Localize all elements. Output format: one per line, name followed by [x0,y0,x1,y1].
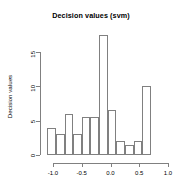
x-axis-tick-label: -1.0 [41,170,65,176]
y-axis-tick [36,86,40,87]
histogram-bar [47,128,56,155]
histogram-bar [99,35,108,155]
histogram-bar [65,114,74,155]
histogram-bar [116,141,125,155]
x-axis-tick [139,163,140,167]
x-axis-tick [168,163,169,167]
y-axis-tick [36,52,40,53]
x-axis-tick-label: 0.5 [127,170,151,176]
x-axis-tick [111,163,112,167]
histogram-bar [108,110,117,155]
chart-container: Decision values (svm) Decision values 05… [0,0,182,192]
y-axis-tick [36,121,40,122]
histogram-bar [56,134,65,155]
histogram-bar [82,117,91,155]
y-axis-tick [36,155,40,156]
histogram-bar [142,86,151,155]
plot-area: 051015-1.0-0.50.00.51.0 [0,0,182,192]
histogram-bar [134,141,143,155]
y-axis-tick-label: 10 [30,85,36,118]
y-axis-line [40,52,41,155]
y-axis-tick-label: 0 [30,154,36,187]
histogram-bar [73,134,82,155]
x-axis-tick-label: 1.0 [156,170,180,176]
y-axis-tick-label: 5 [30,120,36,153]
x-axis-tick [53,163,54,167]
y-axis-tick-label: 15 [30,51,36,84]
x-axis-tick-label: -0.5 [70,170,94,176]
histogram-bar [90,117,99,155]
x-axis-tick [82,163,83,167]
histogram-bar [125,145,134,155]
x-axis-tick-label: 0.0 [99,170,123,176]
